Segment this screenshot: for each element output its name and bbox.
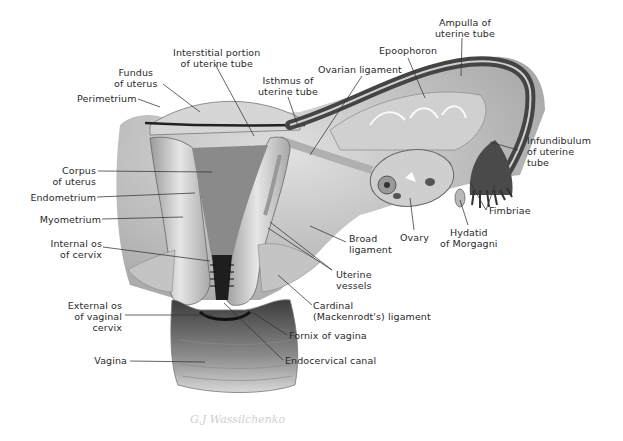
label-broad-ligament: Broad ligament	[349, 233, 392, 255]
label-ampulla: Ampulla of uterine tube	[435, 17, 495, 39]
label-interstitial-portion: Interstitial portion of uterine tube	[173, 47, 260, 69]
artist-signature: G.J Wassilchenko	[190, 413, 285, 426]
label-ovarian-ligament: Ovarian ligament	[318, 64, 402, 75]
label-perimetrium: Perimetrium	[77, 93, 137, 104]
label-endocervical-canal: Endocervical canal	[285, 355, 376, 366]
label-isthmus: Isthmus of uterine tube	[258, 75, 318, 97]
label-myometrium: Myometrium	[20, 214, 101, 225]
label-endometrium: Endometrium	[20, 192, 96, 203]
ovary-spot	[393, 193, 401, 199]
label-infundibulum: Infundibulum of uterine tube	[527, 135, 591, 168]
label-corpus-of-uterus: Corpus of uterus	[52, 165, 96, 187]
vagina-shape	[171, 300, 298, 393]
label-epoophoron: Epoophoron	[379, 45, 437, 56]
label-external-os: External os of vaginal cervix	[40, 300, 122, 333]
fundus-shape	[150, 101, 300, 135]
label-vagina: Vagina	[60, 355, 127, 366]
label-fornix-of-vagina: Fornix of vagina	[289, 330, 367, 341]
anatomy-figure: Perimetrium Fundus of uterus Interstitia…	[0, 0, 623, 441]
ovary-spot	[425, 178, 435, 186]
label-hydatid-of-morgagni: Hydatid of Morgagni	[440, 227, 498, 249]
label-fundus: Fundus of uterus	[114, 67, 158, 89]
label-fimbriae: Fimbriae	[489, 205, 531, 216]
follicle-center	[384, 182, 390, 188]
label-uterine-vessels: Uterine vessels	[336, 269, 372, 291]
hydatid-shape	[455, 189, 465, 207]
label-internal-os: Internal os of cervix	[30, 238, 102, 260]
label-ovary: Ovary	[400, 232, 429, 243]
label-cardinal-ligament: Cardinal (Mackenrodt's) ligament	[313, 300, 431, 322]
